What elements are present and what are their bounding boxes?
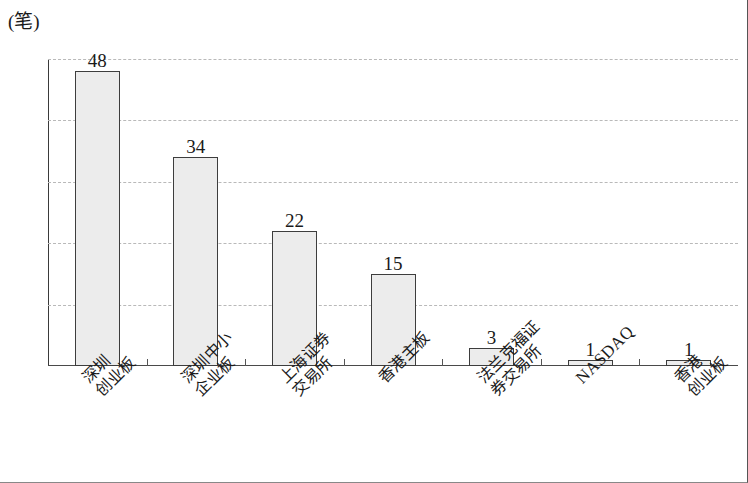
bar: 48 <box>75 71 120 366</box>
plot-area: 01020304050 48342215311 <box>48 59 738 366</box>
x-axis-tick <box>344 359 345 366</box>
bar-value-label: 34 <box>186 137 205 156</box>
bar-chart-figure: (笔) 01020304050 48342215311 深圳 创业板深圳中小 企… <box>0 0 748 483</box>
bar-value-label: 15 <box>384 254 403 273</box>
bar-value-label: 3 <box>487 328 497 347</box>
gridline <box>48 120 738 121</box>
x-axis-tick <box>639 359 640 366</box>
y-axis-line <box>48 59 49 366</box>
y-axis-unit-label: (笔) <box>8 6 40 33</box>
plot-inner: 01020304050 48342215311 <box>48 59 738 366</box>
x-axis-tick <box>442 359 443 366</box>
gridline <box>48 182 738 183</box>
x-axis-tick <box>147 359 148 366</box>
gridline <box>48 59 738 60</box>
gridline <box>48 243 738 244</box>
bar-value-label: 48 <box>88 51 107 70</box>
bar-value-label: 22 <box>285 211 304 230</box>
bar: 34 <box>173 157 218 366</box>
